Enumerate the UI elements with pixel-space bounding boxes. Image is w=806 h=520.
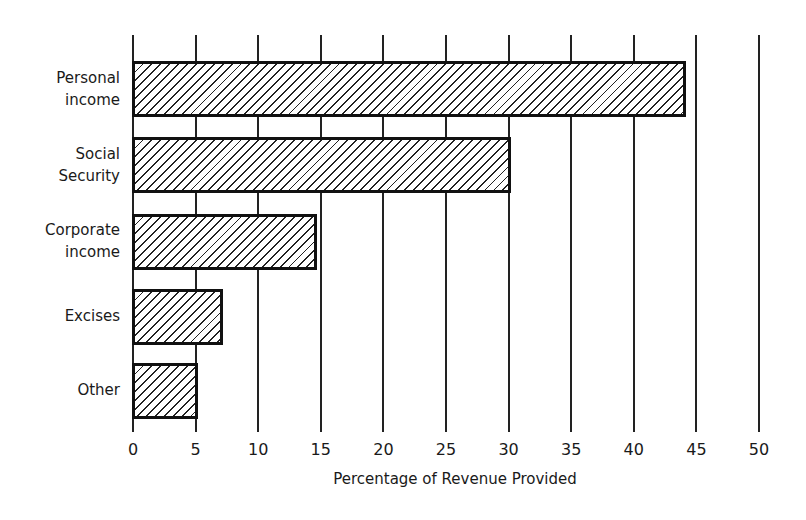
bar-social-security	[132, 137, 511, 193]
x-tick-label: 25	[426, 440, 466, 459]
category-label-other: Other	[77, 379, 120, 401]
x-tick-label: 45	[676, 440, 716, 459]
bar-chart: Personal income Social Security Corporat…	[0, 0, 806, 520]
category-label-excises: Excises	[65, 305, 120, 327]
x-tick-label: 20	[363, 440, 403, 459]
category-label-social-security: Social Security	[58, 143, 120, 187]
x-tick-label: 40	[614, 440, 654, 459]
x-tick-label: 5	[176, 440, 216, 459]
bar-other	[132, 363, 198, 419]
x-tick-label: 50	[739, 440, 779, 459]
gridline	[695, 35, 697, 432]
bar-corporate-income	[132, 214, 317, 270]
category-label-personal-income: Personal income	[56, 67, 120, 111]
x-axis-title: Percentage of Revenue Provided	[240, 470, 670, 488]
x-tick-label: 0	[113, 440, 153, 459]
category-label-corporate-income: Corporate income	[45, 219, 120, 263]
bar-excises	[132, 289, 223, 345]
x-tick-label: 15	[301, 440, 341, 459]
x-tick-label: 35	[551, 440, 591, 459]
gridline	[758, 35, 760, 432]
x-tick-label: 30	[489, 440, 529, 459]
x-tick-label: 10	[238, 440, 278, 459]
bar-personal-income	[132, 61, 686, 117]
